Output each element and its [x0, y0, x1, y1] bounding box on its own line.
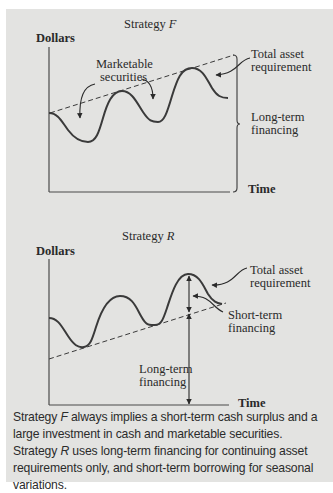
strategy-r-total-asset-label: Total asset requirement	[250, 264, 310, 290]
strategy-f-securities-arrow-right	[141, 79, 153, 99]
caption-prefix: Strategy	[13, 444, 60, 458]
label-line: financing	[139, 376, 192, 389]
strategy-f-total-asset-trend	[50, 55, 234, 113]
strategy-r-title: Strategy R	[122, 229, 174, 244]
strategy-r-asset-curve	[49, 274, 222, 347]
strategy-f-long-term-brace	[233, 55, 240, 192]
strategy-r-total-asset-arrow	[212, 268, 247, 285]
title-prefix: Strategy	[122, 229, 167, 243]
caption-letter: F	[60, 410, 67, 424]
label-line: financing	[228, 322, 282, 335]
title-letter: R	[167, 229, 175, 243]
strategy-r-short-term-label: Short-term financing	[228, 309, 282, 335]
strategy-r-long-term-label: Long-term financing	[139, 363, 192, 389]
strategy-f-total-asset-arrow	[216, 58, 250, 75]
caption-strategy-f: Strategy F always implies a short-term c…	[13, 409, 333, 443]
figure-caption: Strategy F always implies a short-term c…	[13, 409, 333, 493]
strategy-f-securities-arrow-left	[80, 84, 95, 118]
caption-letter: R	[60, 444, 69, 458]
caption-strategy-r: Strategy R uses long-term financing for …	[13, 443, 333, 493]
strategy-r-y-axis-label: Dollars	[36, 244, 75, 259]
caption-prefix: Strategy	[13, 410, 60, 424]
label-line: requirement	[250, 277, 310, 290]
strategy-f-axes	[49, 47, 230, 192]
